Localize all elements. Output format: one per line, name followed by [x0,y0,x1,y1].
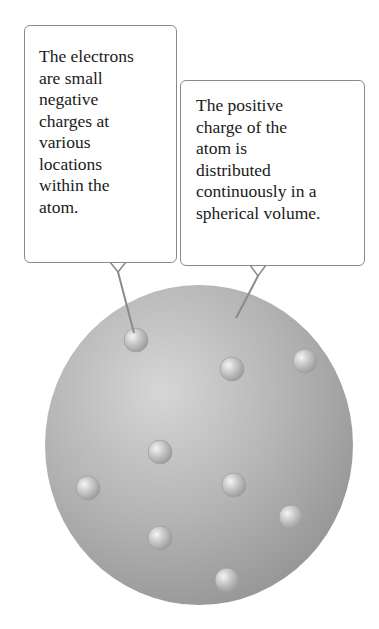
callout-electrons: The electrons are small negative charges… [24,25,177,263]
electron-1 [124,328,148,352]
leader-line-electrons [110,262,126,272]
sphere [45,285,353,605]
electron-9 [215,568,239,592]
callout-positive-charge: The positive charge of the atom is distr… [180,80,365,266]
electron-2 [220,357,244,381]
electron-6 [222,473,246,497]
electron-8 [148,526,172,550]
callout-positive-charge-text: The positive charge of the atom is distr… [196,95,358,224]
callout-electrons-text: The electrons are small negative charges… [39,46,166,218]
electron-4 [148,440,172,464]
leader-line-positive [250,265,266,276]
electron-3 [293,349,317,373]
electron-7 [279,505,303,529]
positive-charge-sphere [45,285,353,605]
electron-5 [76,476,100,500]
